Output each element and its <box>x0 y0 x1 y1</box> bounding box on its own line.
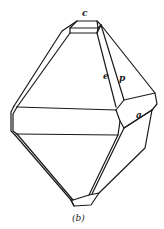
face-label-c: c <box>82 8 88 18</box>
crystal-diagram: c e p a (b) <box>0 0 164 229</box>
face-label-p: p <box>119 73 126 83</box>
face-label-e: e <box>103 71 109 81</box>
figure-caption: (b) <box>72 213 85 223</box>
face-label-a: a <box>136 110 142 120</box>
